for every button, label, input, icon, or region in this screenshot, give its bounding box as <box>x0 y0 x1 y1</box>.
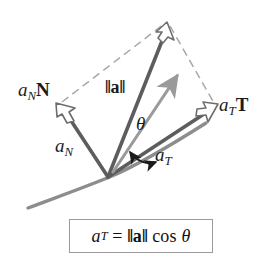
label-at-t-subscript: T <box>229 103 236 118</box>
formula-norm-vector-a: a <box>133 226 142 247</box>
formula-theta: θ <box>181 226 190 247</box>
label-theta-angle: θ <box>136 114 145 133</box>
acceleration-vector-arrowhead <box>156 22 174 43</box>
label-normal-component-vector: aNN <box>18 80 50 103</box>
label-tangential-component-scalar: aT <box>155 145 172 168</box>
label-normal-component-scalar: aN <box>55 136 73 159</box>
label-an-n-subscript: N <box>28 88 37 103</box>
formula-lhs-subscript: T <box>101 229 108 244</box>
label-at-subscript: T <box>165 153 172 168</box>
label-acceleration-magnitude: ‖a‖ <box>105 78 125 96</box>
label-an-n-unitvector: N <box>36 79 50 100</box>
label-at-base: a <box>155 144 165 165</box>
label-at-t-base: a <box>219 94 229 115</box>
formula-box: aT = ‖a‖ cos θ <box>69 219 213 253</box>
label-tangential-component-vector: aTT <box>219 95 248 118</box>
acceleration-components-diagram: aNN ‖a‖ aTT aN aT θ aT = ‖a‖ cos θ <box>0 0 274 253</box>
formula-norm-close: ‖ <box>142 226 147 247</box>
label-an-subscript: N <box>65 144 74 159</box>
label-at-t-unitvector: T <box>236 94 249 115</box>
formula-equals: = <box>112 226 122 247</box>
normal-component-arrowhead <box>56 103 75 123</box>
norm-close-bar: ‖ <box>119 77 124 97</box>
dashed-parallelogram-side-right <box>170 26 214 103</box>
formula-lhs-base: a <box>91 226 100 247</box>
label-an-base: a <box>55 135 65 156</box>
label-an-n-base: a <box>18 79 28 100</box>
formula-text: aT = ‖a‖ cos θ <box>70 220 212 252</box>
formula-cos: cos <box>152 226 177 247</box>
